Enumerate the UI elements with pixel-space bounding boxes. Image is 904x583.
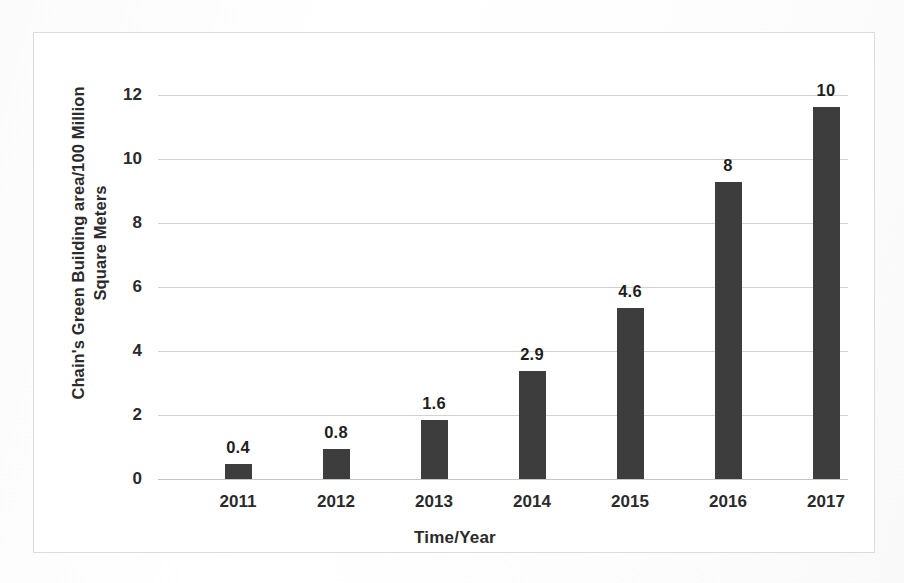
y-axis-tick-label: 2 — [133, 405, 142, 425]
bar-value-label: 8 — [723, 156, 732, 175]
x-axis-title: Time/Year — [34, 528, 876, 548]
bar-rect[interactable] — [617, 308, 644, 479]
bar-group-2016: 8 — [688, 156, 768, 479]
bar-value-label: 2.9 — [520, 345, 544, 364]
bar-group-2013: 1.6 — [394, 394, 474, 480]
y-axis-tick-label: 8 — [133, 213, 142, 233]
x-axis-tick-label-2015: 2015 — [611, 492, 649, 512]
bar-rect[interactable] — [519, 371, 546, 479]
y-axis-tick-label: 6 — [133, 277, 142, 297]
bar-rect[interactable] — [421, 420, 448, 480]
bar-group-2014: 2.9 — [492, 345, 572, 479]
bar-rect[interactable] — [715, 182, 742, 479]
y-axis-tick-label: 10 — [123, 149, 142, 169]
y-axis-tick-label: 0 — [133, 469, 142, 489]
bars-layer: 0.4 0.8 1.6 2.9 4.6 — [158, 33, 848, 479]
chart-frame: Chain's Green Building area/100 Million … — [33, 32, 875, 553]
y-axis-tick-label: 4 — [133, 341, 142, 361]
plot-area: 0.4 0.8 1.6 2.9 4.6 — [158, 33, 848, 554]
bar-rect[interactable] — [323, 449, 350, 479]
bar-group-2011: 0.4 — [198, 438, 278, 479]
bar-chart: Chain's Green Building area/100 Million … — [34, 33, 876, 554]
bar-rect[interactable] — [813, 107, 840, 479]
bar-group-2012: 0.8 — [296, 423, 376, 479]
bar-value-label: 4.6 — [618, 282, 642, 301]
bar-group-2015: 4.6 — [590, 282, 670, 479]
bar-group-2017: 10 — [786, 81, 866, 479]
y-axis-tick-label: 12 — [123, 85, 142, 105]
x-axis-tick-label-2017: 2017 — [807, 492, 845, 512]
bar-value-label: 10 — [817, 81, 836, 100]
bar-value-label: 1.6 — [422, 394, 446, 413]
x-axis-tick-label-2014: 2014 — [513, 492, 551, 512]
x-axis-tick-label-2013: 2013 — [415, 492, 453, 512]
x-axis-tick-label-2016: 2016 — [709, 492, 747, 512]
bar-value-label: 0.4 — [226, 438, 250, 457]
x-axis-tick-label-2011: 2011 — [220, 492, 257, 512]
bar-rect[interactable] — [225, 464, 252, 479]
bar-value-label: 0.8 — [324, 423, 348, 442]
gridline-0-baseline — [158, 479, 848, 480]
x-axis-tick-label-2012: 2012 — [317, 492, 355, 512]
y-axis-tick-labels: 12 10 8 6 4 2 0 — [94, 33, 142, 554]
